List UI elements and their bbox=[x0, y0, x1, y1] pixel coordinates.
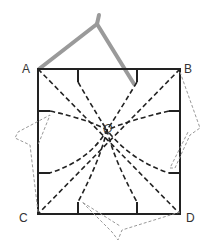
label-d: D bbox=[186, 212, 195, 224]
label-b: B bbox=[184, 63, 192, 75]
label-o: O bbox=[103, 123, 112, 135]
construction-lines bbox=[38, 69, 180, 214]
label-a: A bbox=[22, 63, 30, 75]
label-c: C bbox=[19, 212, 28, 224]
compass-icon bbox=[39, 15, 134, 84]
